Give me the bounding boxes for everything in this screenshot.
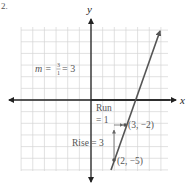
slope-m-prefix: m = (35, 63, 51, 74)
point-label-2-neg5: (2, −5) (117, 156, 143, 167)
run-label-line1: Run (96, 103, 112, 113)
coordinate-plane-diagram: 2. x y m = 3 1 = 3 Run = 1 (3, −2) Rise … (0, 0, 188, 187)
grid (21, 27, 168, 171)
point-label-3-neg2: (3, −2) (128, 120, 154, 131)
slope-annotation: m = 3 1 = 3 (35, 62, 75, 76)
rise-label: Rise = 3 (72, 138, 104, 148)
problem-number: 2. (1, 1, 8, 11)
slope-numerator: 3 (57, 62, 60, 68)
run-label-line2: = 1 (96, 115, 109, 125)
point-3-neg2 (123, 123, 127, 127)
y-axis-label: y (86, 3, 92, 15)
slope-denominator: 1 (57, 70, 60, 76)
x-axis-label: x (179, 94, 185, 106)
slope-result: = 3 (62, 63, 75, 74)
point-2-neg5 (112, 158, 116, 162)
